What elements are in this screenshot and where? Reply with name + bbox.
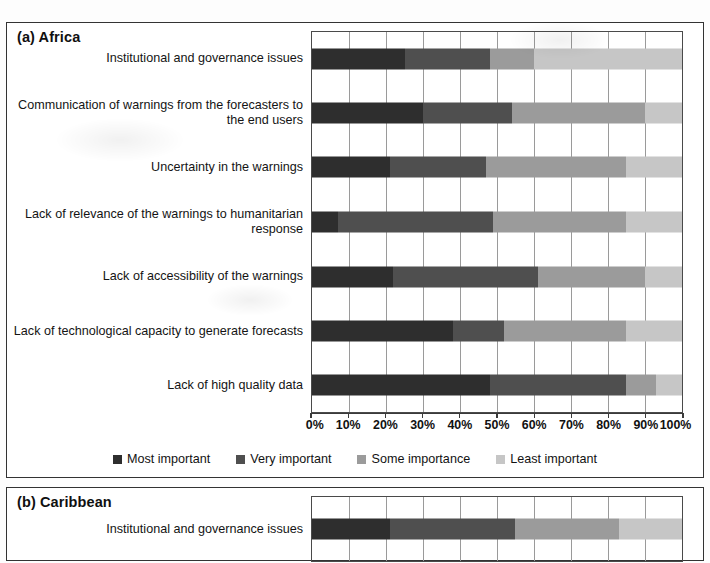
- category-label: Lack of relevance of the warnings to hum…: [11, 207, 311, 236]
- x-axis-tick-label: 20%: [373, 418, 398, 432]
- legend-item-label: Very important: [250, 452, 331, 466]
- chart-caribbean-rows: Institutional and governance issues: [11, 496, 683, 562]
- bar-segment: [515, 519, 619, 540]
- bar-segment: [534, 48, 682, 69]
- bar-segment: [493, 211, 626, 232]
- chart-legend: Most importantVery importantSome importa…: [7, 449, 703, 469]
- plot-area: [311, 195, 683, 250]
- legend-swatch-icon: [496, 455, 505, 464]
- bar-segment: [423, 102, 512, 123]
- bar-segment: [490, 375, 627, 396]
- legend-item-label: Some importance: [371, 452, 470, 466]
- bar-segment: [312, 157, 390, 178]
- x-axis-tick-label: 0%: [306, 418, 324, 432]
- bar-segment: [390, 157, 486, 178]
- legend-item-least[interactable]: Least important: [496, 452, 597, 466]
- category-label: Lack of technological capacity to genera…: [11, 324, 311, 339]
- legend-swatch-icon: [357, 455, 366, 464]
- bar-segment: [512, 102, 645, 123]
- bar-segment: [312, 321, 453, 342]
- bar-segment: [405, 48, 490, 69]
- chart-row: Communication of warnings from the forec…: [11, 86, 683, 141]
- legend-item-very[interactable]: Very important: [236, 452, 331, 466]
- bar-segment: [312, 102, 423, 123]
- bar-segment: [338, 211, 493, 232]
- x-axis-tick-label: 30%: [410, 418, 435, 432]
- plot-area: [311, 86, 683, 141]
- bar-segment: [504, 321, 626, 342]
- bar-segment: [626, 375, 656, 396]
- stacked-bar: [312, 266, 682, 287]
- bar-segment: [490, 48, 534, 69]
- x-axis-tick-label: 100%: [660, 418, 692, 432]
- chart-row: Institutional and governance issues: [11, 31, 683, 86]
- x-axis-tick-label: 40%: [447, 418, 472, 432]
- panel-caribbean: (b) Caribbean Institutional and governan…: [6, 487, 704, 561]
- x-axis-tick-label: 60%: [522, 418, 547, 432]
- category-label: Institutional and governance issues: [11, 51, 311, 66]
- chart-row: Lack of high quality data: [11, 358, 683, 413]
- chart-row: Lack of relevance of the warnings to hum…: [11, 195, 683, 250]
- stacked-bar: [312, 519, 682, 540]
- stacked-bar: [312, 102, 682, 123]
- plot-area: [311, 249, 683, 304]
- bar-segment: [486, 157, 627, 178]
- bar-segment: [312, 519, 390, 540]
- chart-row: Lack of accessibility of the warnings: [11, 249, 683, 304]
- x-axis-tick-label: 70%: [559, 418, 584, 432]
- bar-segment: [312, 375, 490, 396]
- panel-africa: (a) Africa Institutional and governance …: [6, 22, 704, 478]
- category-label: Lack of accessibility of the warnings: [11, 269, 311, 284]
- bar-segment: [645, 266, 682, 287]
- category-label: Institutional and governance issues: [11, 522, 311, 537]
- x-axis-tick-label: 80%: [596, 418, 621, 432]
- legend-item-most[interactable]: Most important: [113, 452, 210, 466]
- chart-row: Lack of technological capacity to genera…: [11, 304, 683, 359]
- chart-africa-rows: Institutional and governance issuesCommu…: [11, 31, 683, 413]
- stacked-bar: [312, 211, 682, 232]
- x-axis-tick-label: 50%: [485, 418, 510, 432]
- chart-caribbean: Institutional and governance issues: [11, 496, 683, 562]
- bar-segment: [656, 375, 682, 396]
- chart-row: Uncertainty in the warnings: [11, 140, 683, 195]
- stacked-bar: [312, 375, 682, 396]
- category-label: Lack of high quality data: [11, 378, 311, 393]
- x-axis-tick-label: 10%: [336, 418, 361, 432]
- chart-row: Institutional and governance issues: [11, 496, 683, 562]
- bar-segment: [626, 211, 682, 232]
- plot-area: [311, 304, 683, 359]
- category-label: Uncertainty in the warnings: [11, 160, 311, 175]
- legend-item-some[interactable]: Some importance: [357, 452, 470, 466]
- category-label: Communication of warnings from the forec…: [11, 98, 311, 127]
- x-axis-tick-label: 90%: [633, 418, 658, 432]
- bar-segment: [626, 321, 682, 342]
- bar-segment: [626, 157, 682, 178]
- legend-swatch-icon: [113, 455, 122, 464]
- bar-segment: [453, 321, 505, 342]
- legend-swatch-icon: [236, 455, 245, 464]
- figure-page: (a) Africa Institutional and governance …: [0, 0, 710, 563]
- bar-segment: [619, 519, 682, 540]
- bar-segment: [393, 266, 537, 287]
- chart-africa: Institutional and governance issuesCommu…: [11, 31, 683, 435]
- plot-area: [311, 31, 683, 86]
- legend-item-label: Least important: [510, 452, 597, 466]
- chart-africa-x-axis: 0%10%20%30%40%50%60%70%80%90%100%: [311, 413, 683, 435]
- plot-area: [311, 358, 683, 413]
- plot-area: [311, 140, 683, 195]
- bar-segment: [538, 266, 645, 287]
- bar-segment: [312, 266, 393, 287]
- bar-segment: [645, 102, 682, 123]
- bar-segment: [312, 211, 338, 232]
- stacked-bar: [312, 157, 682, 178]
- stacked-bar: [312, 48, 682, 69]
- bar-segment: [390, 519, 516, 540]
- plot-area: [311, 496, 683, 562]
- bar-segment: [312, 48, 405, 69]
- legend-item-label: Most important: [127, 452, 210, 466]
- stacked-bar: [312, 321, 682, 342]
